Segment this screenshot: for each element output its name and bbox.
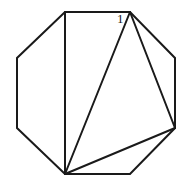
chord-main-diagonal [65, 12, 130, 174]
figure-canvas: 1 [0, 0, 194, 189]
chord-right-diagonal [130, 12, 175, 128]
octagon-triangulation-figure [0, 0, 194, 189]
vertex-label-1: 1 [117, 12, 124, 25]
octagon-outline [17, 12, 175, 174]
